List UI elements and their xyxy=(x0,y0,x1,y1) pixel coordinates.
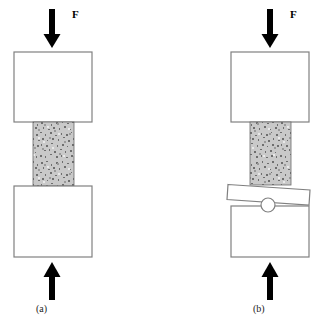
spherical-seat-ball xyxy=(261,198,275,212)
top-force-arrow-shaft xyxy=(267,9,273,35)
upper-platen-a xyxy=(14,52,92,122)
panel-caption-b: (b) xyxy=(253,303,265,315)
figure-canvas: F (a) F xyxy=(0,0,315,325)
compression-test-figure: F (a) F xyxy=(0,0,315,325)
force-label-b: F xyxy=(290,8,297,20)
top-force-arrow-shaft xyxy=(49,9,55,35)
upper-platen-b xyxy=(231,52,309,122)
force-label-a: F xyxy=(72,8,79,20)
specimen-a xyxy=(33,122,74,186)
bottom-force-arrow-shaft xyxy=(267,276,273,300)
bottom-force-arrow-shaft xyxy=(49,276,55,300)
specimen-b xyxy=(250,122,291,185)
panel-caption-a: (a) xyxy=(36,303,47,315)
lower-platen-b xyxy=(231,206,309,257)
lower-platen-a xyxy=(14,186,92,257)
